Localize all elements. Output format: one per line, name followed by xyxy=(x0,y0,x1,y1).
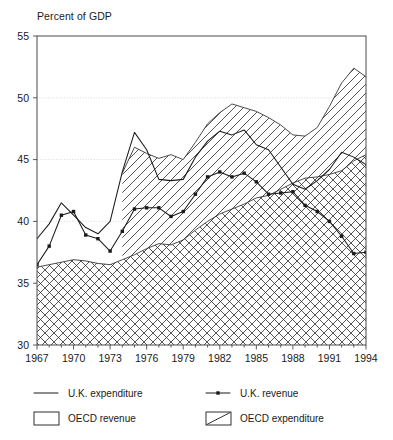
y-tick-label-55: 55 xyxy=(17,30,29,42)
x-tick-label-1994: 1994 xyxy=(354,352,378,364)
marker-uk-revenue xyxy=(328,220,331,223)
legend-label-uk-expenditure: U.K. expenditure xyxy=(68,388,143,399)
marker-uk-revenue xyxy=(108,249,111,252)
legend-label-oecd-expenditure: OECD expenditure xyxy=(240,413,324,424)
x-tick-label-1973: 1973 xyxy=(98,352,122,364)
marker-uk-revenue xyxy=(169,215,172,218)
x-tick-label-1970: 1970 xyxy=(62,352,86,364)
marker-uk-revenue xyxy=(340,235,343,238)
marker-uk-revenue xyxy=(96,237,99,240)
marker-uk-revenue xyxy=(352,252,355,255)
marker-uk-revenue xyxy=(47,244,50,247)
x-tick-label-1988: 1988 xyxy=(281,352,305,364)
marker-uk-revenue xyxy=(157,206,160,209)
x-tick-label-1976: 1976 xyxy=(135,352,159,364)
marker-uk-revenue xyxy=(303,204,306,207)
y-tick-label-30: 30 xyxy=(17,339,29,351)
legend-label-oecd-revenue: OECD revenue xyxy=(68,413,136,424)
x-tick-label-1967: 1967 xyxy=(25,352,49,364)
marker-uk-revenue xyxy=(255,180,258,183)
marker-uk-revenue xyxy=(279,191,282,194)
legend-symbol-oecd-expenditure-hatch xyxy=(207,413,230,425)
area-series-group xyxy=(37,68,366,345)
chart-canvas: 303540455055 196719701973197619791982198… xyxy=(0,0,393,440)
marker-uk-revenue xyxy=(291,190,294,193)
marker-uk-revenue xyxy=(72,210,75,213)
marker-uk-revenue xyxy=(230,175,233,178)
legend-symbol-uk-revenue-marker xyxy=(216,391,219,394)
marker-uk-revenue xyxy=(60,214,63,217)
legend-label-uk-revenue: U.K. revenue xyxy=(240,388,299,399)
marker-uk-revenue xyxy=(267,193,270,196)
y-tick-label-50: 50 xyxy=(17,92,29,104)
x-tick-label-1985: 1985 xyxy=(245,352,269,364)
marker-uk-revenue xyxy=(182,210,185,213)
x-tick-label-1982: 1982 xyxy=(208,352,232,364)
marker-uk-revenue xyxy=(194,193,197,196)
marker-uk-revenue xyxy=(206,175,209,178)
y-axis-tick-labels: 303540455055 xyxy=(17,30,29,351)
x-axis-tick-labels: 1967197019731976197919821985198819911994 xyxy=(25,352,378,364)
marker-uk-revenue xyxy=(218,170,221,173)
marker-uk-revenue xyxy=(242,171,245,174)
marker-uk-revenue xyxy=(133,207,136,210)
y-tick-label-45: 45 xyxy=(17,153,29,165)
marker-uk-revenue xyxy=(145,206,148,209)
marker-uk-revenue xyxy=(84,233,87,236)
chart-figure: Percent of GDP 303540455055 196719701973… xyxy=(0,0,393,440)
marker-uk-revenue xyxy=(316,210,319,213)
chart-legend: U.K. expenditure U.K. revenue OECD reven… xyxy=(34,388,324,425)
y-tick-label-40: 40 xyxy=(17,215,29,227)
legend-symbol-oecd-revenue xyxy=(34,412,59,425)
y-tick-label-35: 35 xyxy=(17,277,29,289)
y-axis-title: Percent of GDP xyxy=(37,10,112,22)
marker-uk-revenue xyxy=(121,230,124,233)
x-tick-label-1991: 1991 xyxy=(318,352,342,364)
x-tick-label-1979: 1979 xyxy=(172,352,196,364)
